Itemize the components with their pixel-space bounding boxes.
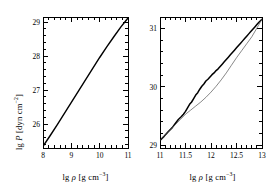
data-series-smooth-equation-of-state	[160, 19, 262, 140]
right-panel: 1111.51212.513293031	[136, 0, 279, 190]
y-tick-label: 26	[33, 120, 41, 129]
y-tick-label: 29	[150, 141, 158, 150]
figure-container: 89101126272829 lg ρ [g cm−3] lg P [dyn c…	[0, 0, 279, 190]
x-tick-label: 13	[258, 151, 266, 160]
y-tick-label: 30	[150, 83, 158, 92]
left-panel-y-axis-label: lg P [dyn cm−2]	[14, 94, 24, 150]
x-tick-label: 11.5	[179, 151, 192, 160]
x-tick-label: 10	[96, 151, 104, 160]
x-tick-label: 11	[156, 151, 163, 160]
x-tick-label: 11	[124, 151, 131, 160]
data-series-shell-structure-equation-of-state	[160, 19, 262, 140]
plot-frame	[43, 17, 128, 148]
y-tick-label: 31	[150, 24, 158, 33]
x-tick-label: 9	[69, 151, 73, 160]
right-panel-plot: 1111.51212.513293031	[136, 0, 279, 190]
y-tick-label: 28	[33, 52, 41, 61]
x-tick-label: 12.5	[230, 151, 243, 160]
data-series-equation-of-state	[43, 18, 128, 146]
y-tick-label: 27	[33, 86, 41, 95]
x-tick-label: 12	[207, 151, 215, 160]
y-tick-label: 29	[33, 18, 41, 27]
x-tick-label: 8	[41, 151, 45, 160]
right-panel-x-axis-label: lg ρ [g cm−3]	[160, 172, 265, 182]
left-panel-x-axis-label: lg ρ [g cm−3]	[43, 172, 128, 182]
